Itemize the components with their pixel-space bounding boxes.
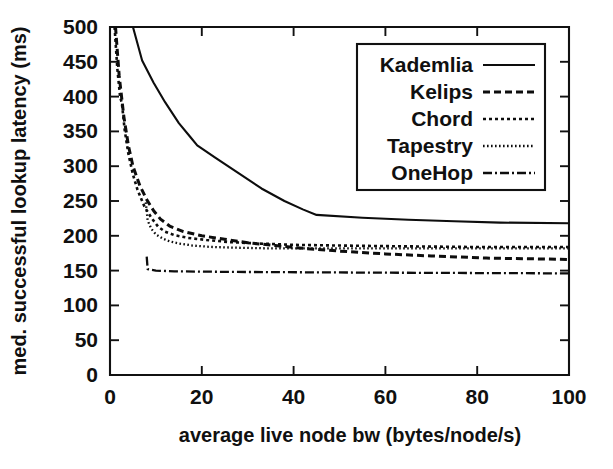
chart-figure: 050100150200250300350400450500 020406080… <box>0 0 613 469</box>
y-tick-label: 300 <box>63 154 98 177</box>
y-axis-title: med. successful lookup latency (ms) <box>8 27 30 376</box>
legend-label-kademlia: Kademlia <box>380 53 474 76</box>
legend-label-onehop: OneHop <box>391 161 473 184</box>
x-tick-label: 60 <box>374 385 397 408</box>
x-tick-label: 100 <box>551 385 586 408</box>
y-tick-label: 100 <box>63 293 98 316</box>
x-axis-title: average live node bw (bytes/node/s) <box>179 424 521 446</box>
chart-legend: KademliaKelipsChordTapestryOneHop <box>357 44 545 190</box>
legend-label-chord: Chord <box>411 107 473 130</box>
x-tick-label: 20 <box>190 385 213 408</box>
y-tick-label: 200 <box>63 224 98 247</box>
y-tick-label: 500 <box>63 15 98 38</box>
x-tick-label: 40 <box>282 385 305 408</box>
y-tick-label: 350 <box>63 119 98 142</box>
latency-line-chart: 050100150200250300350400450500 020406080… <box>0 0 613 469</box>
x-tick-label: 0 <box>104 385 116 408</box>
legend-label-tapestry: Tapestry <box>387 134 473 157</box>
y-tick-label: 250 <box>63 189 98 212</box>
y-tick-label: 50 <box>75 328 98 351</box>
y-tick-label: 400 <box>63 85 98 108</box>
x-tick-label: 80 <box>466 385 489 408</box>
y-tick-label: 150 <box>63 259 98 282</box>
y-tick-label: 450 <box>63 50 98 73</box>
legend-label-kelips: Kelips <box>410 80 473 103</box>
y-tick-label: 0 <box>86 363 98 386</box>
